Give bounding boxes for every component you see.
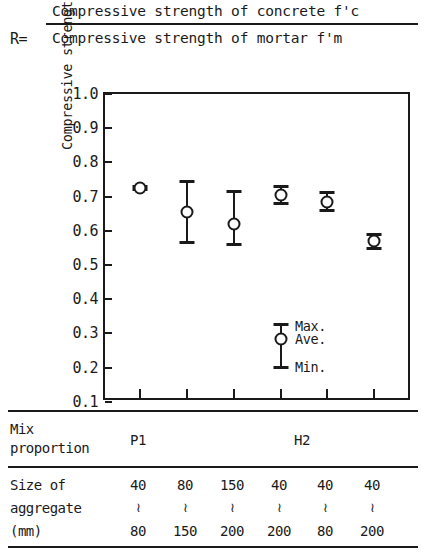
legend-label-min: Min. (295, 359, 326, 375)
y-tick-label: 0.2 (72, 359, 105, 377)
formula-r-label: R= (10, 30, 27, 48)
y-tick-mark (105, 367, 112, 369)
y-tick-mark (105, 127, 112, 129)
average-marker (321, 195, 334, 208)
size-row-header-line1: Size of (10, 477, 66, 493)
average-marker (368, 235, 381, 248)
y-tick-mark (105, 298, 112, 300)
y-tick-label: 0.4 (72, 290, 105, 308)
aggregate-size-from: 40 (317, 477, 333, 493)
y-tick-mark (105, 196, 112, 198)
aggregate-size-to: 80 (317, 523, 333, 539)
x-tick-mark (373, 389, 375, 398)
x-tick-mark (280, 389, 282, 398)
error-bar-cap-min (180, 241, 195, 244)
aggregate-size-separator-icon: ≀ (370, 500, 375, 515)
aggregate-size-to: 200 (267, 523, 291, 539)
y-tick-mark (105, 230, 112, 232)
y-tick-label: 0.7 (72, 188, 105, 206)
y-tick-label: 0.1 (72, 393, 105, 411)
y-tick-mark (105, 93, 112, 95)
legend-marker (275, 332, 288, 345)
legend-cap-min (274, 366, 289, 369)
aggregate-size-from: 80 (177, 477, 193, 493)
aggregate-size-to: 80 (130, 523, 146, 539)
formula-denominator: Compressive strength of mortar f'm (46, 25, 418, 46)
y-tick-mark (105, 332, 112, 334)
chart-plot-area: Compressive strength ratio R 1.00.90.80.… (103, 92, 410, 400)
aggregate-size-from: 40 (271, 477, 287, 493)
average-marker (275, 188, 288, 201)
y-tick-label: 0.8 (72, 153, 105, 171)
table-rule-middle (8, 466, 418, 468)
aggregate-size-to: 200 (220, 523, 244, 539)
y-tick-label: 1.0 (72, 85, 105, 103)
size-row-header-line3: (mm) (10, 523, 42, 539)
mix-group-label-h2: H2 (294, 432, 310, 448)
error-bar-cap-max (180, 180, 195, 183)
y-tick-mark (105, 264, 112, 266)
x-tick-mark (139, 389, 141, 398)
error-bar-cap-max (274, 185, 289, 188)
aggregate-size-separator-icon: ≀ (323, 500, 328, 515)
average-marker (134, 182, 147, 195)
table-rule-top (8, 410, 418, 412)
size-row-header-line2: aggregate (10, 500, 81, 516)
aggregate-size-to: 150 (173, 523, 197, 539)
error-bar-cap-min (274, 202, 289, 205)
error-bar-cap-min (320, 209, 335, 212)
y-tick-label: 0.6 (72, 222, 105, 240)
average-marker (181, 205, 194, 218)
legend-cap-max (274, 323, 289, 326)
aggregate-size-separator-icon: ≀ (136, 500, 141, 515)
aggregate-size-separator-icon: ≀ (277, 500, 282, 515)
x-tick-mark (326, 389, 328, 398)
mix-row-header-line1: Mix (10, 421, 34, 437)
average-marker (228, 217, 241, 230)
legend-stem (280, 323, 282, 369)
formula-fraction: Compressive strength of concrete f'c Com… (46, 3, 418, 46)
y-tick-mark (105, 401, 112, 403)
y-tick-label: 0.9 (72, 119, 105, 137)
error-bar-cap-min (227, 243, 242, 246)
y-tick-label: 0.3 (72, 324, 105, 342)
aggregate-size-separator-icon: ≀ (183, 500, 188, 515)
error-bar-cap-max (320, 191, 335, 194)
aggregate-size-from: 40 (364, 477, 380, 493)
x-tick-mark (233, 389, 235, 398)
aggregate-size-separator-icon: ≀ (230, 500, 235, 515)
table-rule-bottom (8, 546, 418, 548)
mix-row-header-line2: proportion (10, 440, 89, 456)
formula-numerator: Compressive strength of concrete f'c (46, 3, 418, 23)
y-tick-label: 0.5 (72, 256, 105, 274)
legend-label-ave: Ave. (295, 331, 326, 347)
x-tick-mark (186, 389, 188, 398)
aggregate-size-to: 200 (360, 523, 384, 539)
aggregate-size-from: 150 (220, 477, 244, 493)
aggregate-size-from: 40 (130, 477, 146, 493)
mix-group-label-p1: P1 (130, 432, 146, 448)
y-tick-mark (105, 161, 112, 163)
error-bar-cap-max (227, 190, 242, 193)
